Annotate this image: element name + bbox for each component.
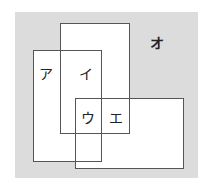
region-label-a: ア [38,67,54,81]
region-label-i: イ [78,67,94,81]
region-label-e: エ [108,111,124,125]
region-label-o: オ [149,36,165,50]
region-label-u: ウ [80,111,96,125]
venn-shapes [0,0,203,187]
